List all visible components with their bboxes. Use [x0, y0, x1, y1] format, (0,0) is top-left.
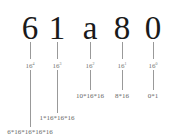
connector-line: [90, 70, 91, 90]
hex-digit-6: 6: [18, 12, 42, 45]
formula-label: 8*16: [115, 92, 129, 100]
connector-line: [153, 42, 154, 59]
place-value-label: 160: [143, 60, 163, 70]
connector-line: [153, 70, 154, 90]
hex-digit-8: 8: [110, 12, 134, 45]
place-value-label: 162: [80, 60, 100, 70]
formula-label: 6*16*16*16*16: [7, 128, 53, 136]
connector-line: [57, 70, 58, 113]
hex-digit-a: a: [78, 12, 102, 45]
place-value-label: 163: [47, 60, 67, 70]
connector-line: [30, 70, 31, 127]
formula-label: 0*1: [148, 92, 159, 100]
hex-digit-1: 1: [45, 12, 69, 45]
place-value-label: 161: [112, 60, 132, 70]
place-value-label: 164: [20, 60, 40, 70]
connector-line: [30, 42, 31, 59]
hex-digit-0: 0: [141, 12, 165, 45]
formula-label: 10*16*16: [76, 92, 104, 100]
connector-line: [57, 42, 58, 59]
connector-line: [122, 70, 123, 90]
formula-label: 1*16*16*16: [40, 114, 75, 122]
connector-line: [122, 42, 123, 59]
connector-line: [90, 42, 91, 59]
